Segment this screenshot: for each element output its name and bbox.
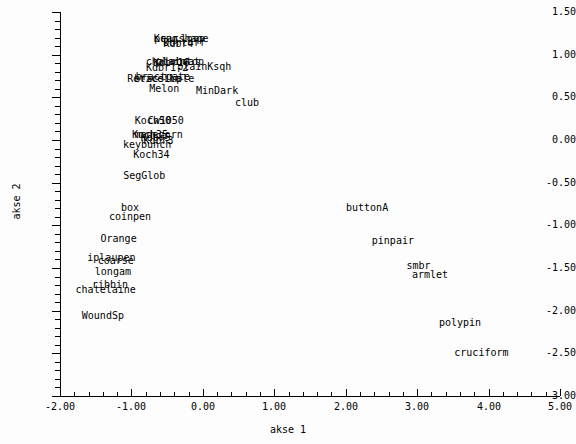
data-point-label: WoundSp (82, 311, 124, 321)
x-axis-title: akse 1 (0, 424, 576, 435)
data-point-label: Cw1050 (148, 116, 184, 126)
data-point-labels-layer: KrugpearshapeDortoffloopKdbr4chainboatKd… (0, 0, 576, 444)
data-point-label: Orange (101, 234, 137, 244)
data-point-label: Melon (149, 84, 179, 94)
data-point-label: buttonA (346, 203, 388, 213)
data-point-label: SegGlob (123, 171, 165, 181)
data-point-label: cruciform (454, 348, 508, 358)
data-point-label: Kdbr4 (164, 39, 194, 49)
data-point-label: coinpen (109, 212, 151, 222)
data-point-label: polypin (439, 318, 481, 328)
data-point-label: MinDark (196, 86, 238, 96)
data-point-label: chatelaine (76, 285, 136, 295)
data-point-label: coarse (98, 256, 134, 266)
data-point-label: pinpair (372, 236, 414, 246)
data-point-label: longam (95, 267, 131, 277)
y-axis-title: akse 2 (11, 172, 22, 232)
data-point-label: armlet (412, 270, 448, 280)
data-point-label: Koch34 (133, 150, 169, 160)
data-point-label: club (235, 98, 259, 108)
scatter-plot-canvas: 1.501.000.500.00-0.50-1.00-1.50-2.00-2.5… (0, 0, 576, 444)
